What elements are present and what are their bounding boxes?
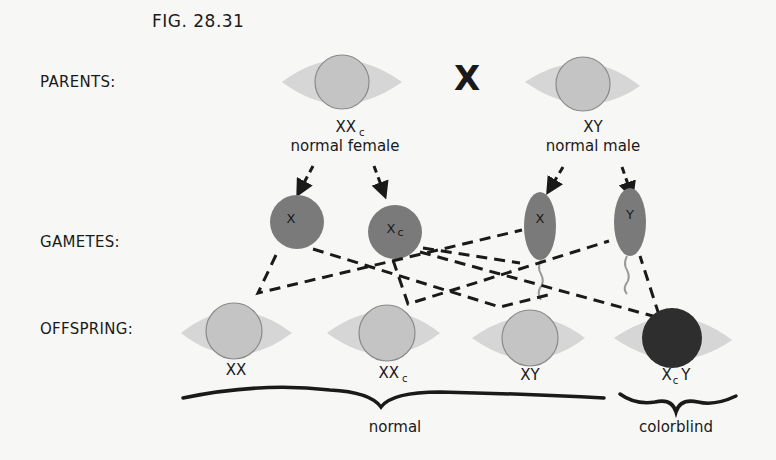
genotype-main: XX [335,118,356,136]
group-label-normal: normal [369,418,422,436]
meiosis-arrows [298,166,632,196]
gamete-egg-x-label: X [287,211,296,226]
gamete-egg-x-icon [270,195,324,249]
offspring-xcy-colorblind-eye-icon [614,308,732,368]
cross-symbol: X [454,58,480,98]
genotype-text: XX [226,361,247,379]
genotype-text: XY [520,366,539,384]
gamete-egg-xc-label: Xc [387,221,404,236]
parent-male-genotype: XY [583,118,602,136]
gamete-sperm-y-label: Y [626,207,634,222]
row-label-gametes: GAMETES: [40,233,120,251]
genotype-subscript: c [402,373,408,384]
gamete-label-main: X [387,221,396,236]
normal-group-brace [183,387,604,407]
inheritance-diagram: FIG. 28.31 PARENTS: GAMETES: OFFSPRING: … [0,0,776,460]
genotype-subscript: c [673,375,679,386]
offspring-xxc-eye-icon [327,305,440,361]
gamete-sperm-x-label: X [536,211,545,226]
row-label-parents: PARENTS: [40,73,116,91]
parent-male-description: normal male [546,137,641,155]
offspring-xx-genotype: XX [226,361,247,379]
gamete-label-subscript: c [397,226,403,239]
offspring-xx-eye-icon [181,303,292,359]
gamete-sperm-x-icon [524,192,556,300]
genotype-text: XX [378,364,399,382]
row-label-offspring: OFFSPRING: [40,320,133,338]
offspring-xcy-genotype: XcY [662,366,691,384]
genotype-text-post: Y [681,366,690,384]
group-label-colorblind: colorblind [639,418,713,436]
genotype-text: X [662,366,672,384]
parent-female-genotype: XXc [335,118,364,136]
parent-female-description: normal female [290,137,399,155]
parent-male-eye-icon [525,57,640,111]
offspring-xy-genotype: XY [520,366,539,384]
colorblind-group-brace [620,394,736,412]
gamete-sperm-y-icon [614,188,646,294]
offspring-xy-eye-icon [472,310,585,366]
fertilization-lines [258,230,660,318]
figure-title: FIG. 28.31 [152,11,244,31]
offspring-xxc-genotype: XXc [378,364,407,382]
parent-female-eye-icon [282,55,402,109]
